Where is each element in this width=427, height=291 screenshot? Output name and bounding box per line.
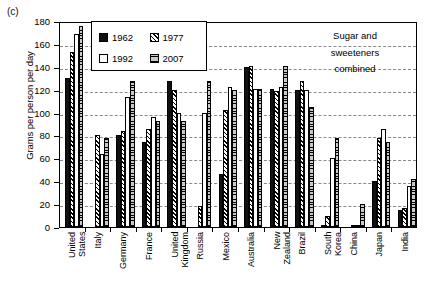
bar <box>207 81 212 227</box>
legend-swatch-2007-icon <box>150 54 159 63</box>
bar <box>258 89 263 227</box>
legend-row: 1962 1977 <box>99 27 200 48</box>
legend: 1962 1977 1992 2007 <box>91 21 207 71</box>
legend-item-2007: 2007 <box>150 53 201 64</box>
y-tick-label: 100 <box>34 109 50 119</box>
y-tick-label: 60 <box>39 155 50 165</box>
y-tick-label: 40 <box>39 177 50 187</box>
legend-item-1962: 1962 <box>99 32 150 43</box>
x-tick-label: Russia <box>196 232 206 260</box>
y-tick-label: 140 <box>34 63 50 73</box>
bar <box>283 66 288 227</box>
y-tick-label: 180 <box>34 17 50 27</box>
legend-swatch-1962-icon <box>99 33 108 42</box>
chart-annotation: Sugar and sweeteners combined <box>296 28 414 78</box>
bar <box>232 90 237 227</box>
y-tick-label: 0 <box>45 223 50 233</box>
legend-label-2007: 2007 <box>163 53 184 64</box>
bar <box>411 179 416 227</box>
x-tick-label: Italy <box>94 232 104 249</box>
y-tick-label: 120 <box>34 86 50 96</box>
legend-swatch-1992-icon <box>99 54 108 63</box>
y-axis-ticks: 020406080100120140160180 <box>0 22 59 228</box>
bar-group <box>270 23 288 227</box>
bar-group <box>219 23 237 227</box>
legend-label-1977: 1977 <box>163 32 184 43</box>
y-tick-label: 80 <box>39 132 50 142</box>
x-axis-labels: UnitedStatesItalyGermanyFranceUnitedKing… <box>59 232 417 291</box>
bar <box>181 121 186 227</box>
legend-label-1992: 1992 <box>112 53 133 64</box>
bar-group <box>65 23 83 227</box>
x-tick-label: UnitedStates <box>68 232 87 258</box>
bar <box>386 142 391 227</box>
y-tick-label: 20 <box>39 200 50 210</box>
x-tick-label: Brazil <box>298 232 308 255</box>
x-tick-label: Germany <box>119 232 129 269</box>
x-tick-label: Japan <box>375 232 385 257</box>
annotation-line-2: sweeteners <box>296 45 414 62</box>
bar <box>360 204 365 227</box>
bar <box>309 107 314 227</box>
x-tick-label: UnitedKingdom <box>171 232 190 268</box>
x-tick-label: NewZealand <box>273 232 292 265</box>
x-tick-label: France <box>145 232 155 260</box>
legend-row: 1992 2007 <box>99 48 200 69</box>
panel-label: (c) <box>7 6 19 17</box>
x-tick-label: India <box>401 232 411 252</box>
x-tick-label: Mexico <box>222 232 232 261</box>
annotation-line-1: Sugar and <box>296 28 414 45</box>
legend-item-1977: 1977 <box>150 32 201 43</box>
annotation-line-3: combined <box>296 61 414 78</box>
bar <box>104 138 109 227</box>
y-tick-label: 160 <box>34 40 50 50</box>
bar <box>156 121 161 227</box>
bar <box>335 138 340 227</box>
bar <box>79 26 84 227</box>
bar <box>130 81 135 227</box>
x-tick-label: China <box>350 232 360 256</box>
x-tick-label: SouthKorea <box>324 232 343 256</box>
legend-label-1962: 1962 <box>112 32 133 43</box>
bar-group <box>244 23 262 227</box>
figure-panel-c: (c) Grams per person per day 02040608010… <box>0 0 427 291</box>
legend-item-1992: 1992 <box>99 53 150 64</box>
x-tick-label: Australia <box>247 232 257 267</box>
legend-swatch-1977-icon <box>150 33 159 42</box>
